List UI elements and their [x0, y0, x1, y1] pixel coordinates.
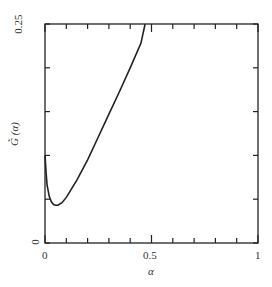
plot-frame	[45, 24, 258, 243]
x-tick-zero-label: 0	[42, 249, 48, 261]
axis-ticks	[45, 24, 258, 243]
data-curve	[45, 24, 145, 205]
x-tick-mid-label: 0.5	[143, 249, 157, 261]
x-axis-label: α	[148, 265, 154, 277]
y-tick-max-label: 0.25	[12, 14, 24, 33]
x-tick-max-label: 1	[255, 249, 261, 261]
line-chart	[0, 0, 272, 287]
y-axis-label: G̃ (α)	[8, 122, 20, 146]
y-tick-zero-label: 0	[29, 239, 41, 245]
